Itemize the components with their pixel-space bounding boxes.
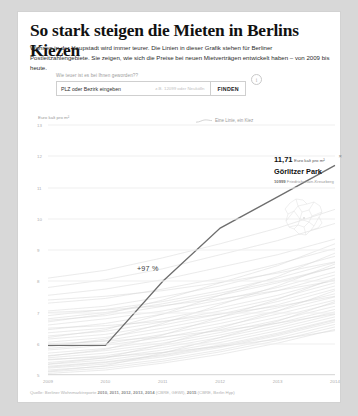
x-axis-tick: 2014: [330, 379, 340, 384]
search-row: PLZ oder Bezirk eingeben z.B. 12099 oder…: [56, 81, 246, 96]
legend-label: Eine Linie, ein Kiez: [215, 118, 253, 123]
source-years-2: 2015: [187, 390, 197, 395]
tooltip-price: 11,71Euro kalt pro m²: [274, 155, 339, 164]
search-widget: Wie teuer ist es bei Ihnen geworden?? PL…: [56, 73, 246, 96]
y-axis-tick: 7: [37, 310, 47, 315]
x-axis-tick: 2009: [43, 379, 53, 384]
x-axis-tick: 2011: [158, 379, 167, 384]
grid-line: [48, 125, 335, 126]
y-axis-tick: 5: [37, 373, 47, 378]
y-axis-tick: 11: [37, 185, 47, 190]
source-suffix: (CBRE, Berlin Hyp): [196, 390, 234, 395]
search-input-value: PLZ oder Bezirk eingeben: [61, 86, 121, 92]
y-axis-tick: 10: [37, 216, 47, 221]
search-label: Wie teuer ist es bei Ihnen geworden??: [56, 73, 246, 78]
x-axis-tick: 2010: [101, 379, 111, 384]
search-input-hint: z.B. 12099 oder Neukölln: [155, 86, 206, 91]
kiez-tooltip: × 11,71Euro kalt pro m² Görlitzer Park 1…: [274, 155, 339, 255]
tooltip-plz: 10999: [274, 179, 286, 184]
info-icon[interactable]: i: [251, 74, 262, 85]
growth-annotation: +97 %: [137, 264, 159, 273]
tooltip-price-unit: Euro kalt pro m²: [294, 158, 325, 163]
grid-line: [48, 343, 335, 344]
x-axis-tick: 2012: [215, 379, 225, 384]
background-series-line: [48, 312, 335, 360]
y-axis-tick: 8: [37, 279, 47, 284]
y-axis-tick: 12: [37, 154, 47, 159]
source-prefix: Quelle: Berliner Wohnmarktreporte: [30, 390, 98, 395]
search-input[interactable]: PLZ oder Bezirk eingeben z.B. 12099 oder…: [57, 82, 210, 95]
berlin-map-icon: [276, 193, 336, 241]
x-axis-tick: 2013: [273, 379, 283, 384]
background-series-line: [48, 278, 335, 356]
source-note: Quelle: Berliner Wohnmarktreporte 2010, …: [30, 390, 330, 396]
legend-line-icon: [196, 119, 212, 123]
grid-line: [48, 312, 335, 313]
close-icon[interactable]: ×: [338, 153, 342, 159]
tooltip-kiez-name: Görlitzer Park: [274, 167, 339, 176]
background-series-line: [48, 248, 335, 303]
source-years-1: 2010, 2011, 2012, 2013, 2014: [98, 390, 155, 395]
rent-chart: Euro kalt pro m² Eine Linie, ein Kiez 13…: [21, 115, 339, 400]
grid-line: [48, 281, 335, 282]
intro-paragraph: Wohnen in der Haupstadt wird immer teure…: [30, 43, 332, 74]
y-axis-tick: 6: [37, 341, 47, 346]
source-mid: (CBRE, GEWI),: [155, 390, 187, 395]
y-axis-tick: 9: [37, 248, 47, 253]
tooltip-location: 10999 Friedrichshain-Kreuzberg: [274, 179, 339, 184]
infographic-card: So stark steigen die Mieten in Berlins K…: [17, 11, 341, 403]
tooltip-district: Friedrichshain-Kreuzberg: [287, 179, 334, 184]
y-axis-tick: 13: [37, 123, 47, 128]
find-button[interactable]: FINDEN: [210, 82, 245, 95]
y-axis-label: Euro kalt pro m²: [38, 115, 69, 120]
tooltip-price-value: 11,71: [274, 155, 293, 164]
chart-legend: Eine Linie, ein Kiez: [196, 118, 253, 123]
grid-line: [48, 375, 335, 376]
